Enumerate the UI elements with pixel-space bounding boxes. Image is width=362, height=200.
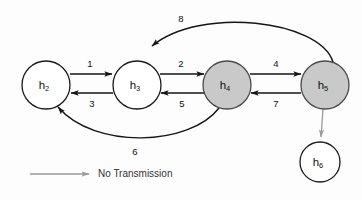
edge-h5-h6-no-transmission xyxy=(321,109,323,137)
edge-3-label: 3 xyxy=(89,98,94,109)
edge-7: 7 xyxy=(251,93,301,109)
edge-1-label: 1 xyxy=(87,58,92,69)
graph-svg: 8 6 1 3 2 5 4 xyxy=(0,0,362,200)
node-h3[interactable]: h3 xyxy=(113,61,161,109)
edge-6: 6 xyxy=(58,107,219,157)
edge-6-path xyxy=(58,107,219,138)
legend: No Transmission xyxy=(30,168,172,179)
edge-3: 3 xyxy=(71,93,113,109)
edge-5: 5 xyxy=(161,93,204,109)
node-h6[interactable]: h6 xyxy=(300,142,340,182)
edge-1: 1 xyxy=(70,58,112,74)
edge-7-label: 7 xyxy=(273,98,278,109)
node-h2[interactable]: h2 xyxy=(22,61,70,109)
diagram-canvas: 8 6 1 3 2 5 4 xyxy=(0,0,362,200)
edge-5-label: 5 xyxy=(179,98,184,109)
node-h4[interactable]: h4 xyxy=(203,61,251,109)
edge-2: 2 xyxy=(160,58,204,74)
edge-8-label: 8 xyxy=(178,13,183,24)
node-h5[interactable]: h5 xyxy=(301,61,349,109)
legend-label: No Transmission xyxy=(98,168,172,179)
edge-4-label: 4 xyxy=(273,58,278,69)
edge-2-label: 2 xyxy=(178,58,183,69)
edge-6-label: 6 xyxy=(132,146,137,157)
edge-h5-h6-path xyxy=(321,109,323,137)
edge-4: 4 xyxy=(250,58,301,74)
edge-8: 8 xyxy=(152,13,333,62)
edge-8-path xyxy=(152,22,333,62)
